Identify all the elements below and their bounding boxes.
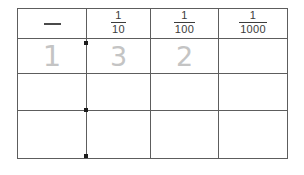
cell-thousandths-row-1[interactable]	[219, 39, 288, 74]
cell-hundredths-row-1[interactable]: 2	[151, 39, 219, 74]
fraction-one-hundredth: 1 100	[174, 10, 195, 35]
fraction-one-tenth: 1 10	[111, 10, 126, 35]
table-row	[18, 111, 288, 159]
place-value-worksheet: 1 10 1 100 1 1000	[0, 0, 304, 175]
cell-thousandths-row-3[interactable]	[219, 111, 288, 159]
cell-thousandths-row-2[interactable]	[219, 74, 288, 111]
table-header-row: 1 10 1 100 1 1000	[18, 9, 288, 39]
digit-value: 3	[110, 43, 127, 70]
table-row: 1 3 2	[18, 39, 288, 74]
decimal-point-icon-row-3	[84, 154, 88, 158]
fraction-numerator: 1	[174, 10, 195, 22]
fraction-numerator: 1	[111, 10, 126, 22]
header-cell-thousandths: 1 1000	[219, 9, 288, 39]
cell-tenths-row-1[interactable]: 3	[87, 39, 151, 74]
header-cell-hundredths: 1 100	[151, 9, 219, 39]
dash-icon	[44, 23, 61, 25]
cell-hundredths-row-3[interactable]	[151, 111, 219, 159]
cell-ones-row-1[interactable]: 1	[18, 39, 87, 74]
decimal-point-icon-row-2	[84, 108, 88, 112]
place-value-table: 1 10 1 100 1 1000	[17, 8, 288, 159]
header-cell-ones	[18, 9, 87, 39]
fraction-denominator: 1000	[239, 23, 267, 35]
cell-tenths-row-2[interactable]	[87, 74, 151, 111]
header-cell-tenths: 1 10	[87, 9, 151, 39]
cell-ones-row-2[interactable]	[18, 74, 87, 111]
cell-hundredths-row-2[interactable]	[151, 74, 219, 111]
table-row	[18, 74, 288, 111]
fraction-denominator: 100	[174, 23, 195, 35]
digit-value: 1	[43, 42, 61, 71]
fraction-one-thousandth: 1 1000	[239, 10, 267, 35]
fraction-denominator: 10	[111, 23, 126, 35]
fraction-numerator: 1	[239, 10, 267, 22]
decimal-point-icon-row-1	[84, 41, 88, 45]
cell-ones-row-3[interactable]	[18, 111, 87, 159]
cell-tenths-row-3[interactable]	[87, 111, 151, 159]
digit-value: 2	[176, 43, 193, 70]
